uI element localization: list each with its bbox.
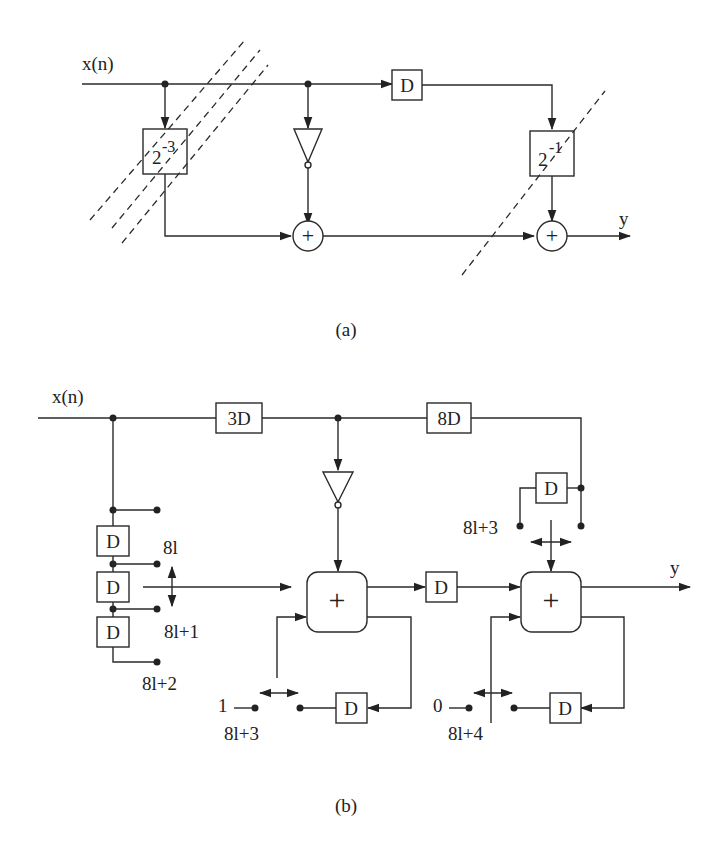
inverter-bubble [335,502,341,508]
caption-a: (a) [335,319,356,341]
diagram-a: x(n) D 2 -3 + 2 -1 + y [82,40,630,341]
delay-label: D [344,698,358,719]
caption-b: (b) [335,795,357,817]
switch-contact [578,523,585,530]
delay-label: D [544,478,558,499]
tap-label-8l-2: 8l+2 [142,673,177,694]
input-label-a: x(n) [82,53,114,75]
acc1-const: 1 [218,695,228,716]
acc2-switch-label: 8l+4 [448,723,483,744]
switch-contact [517,523,524,530]
adder-symbol: + [329,583,346,616]
inverter-bubble [305,162,311,168]
delay-label: D [558,698,572,719]
switch-contact [154,561,161,568]
mux-wire [520,488,536,526]
inverter-icon [294,129,322,162]
delay-label: D [106,622,120,643]
switch-contact [154,659,161,666]
acc1-switch-label: 8l+3 [224,723,259,744]
switch-contact [154,507,161,514]
input-label-b: x(n) [52,386,84,408]
switch-contact [154,606,161,613]
cutset-line [462,91,605,275]
delay-label: D [106,531,120,552]
shift-to-adder-wire [165,174,291,236]
right-mux-label: 8l+3 [463,517,498,538]
shift-exp: -3 [162,138,175,155]
shift-base: 2 [152,147,162,168]
delay-label: D [434,577,448,598]
adder-symbol: + [302,223,314,248]
inverter-icon [323,472,353,502]
adder-symbol: + [546,223,558,248]
switch-contact [297,705,304,712]
feedback-out-wire [367,617,411,708]
delay-3d-label: 3D [227,408,250,429]
tap-label-8l: 8l [163,537,178,558]
switch-contact [511,705,518,712]
tap-wire [113,647,157,662]
tap-label-8l-1: 8l+1 [164,621,199,642]
block-diagram: x(n) D 2 -3 + 2 -1 + y [0,0,724,852]
acc2-const: 0 [433,695,443,716]
delay-label: D [106,577,120,598]
output-label-b: y [670,557,680,578]
delay-to-shift-wire [422,85,552,129]
diagram-b: x(n) 3D 8D D D D 8l 8l+1 [38,386,690,817]
output-label-a: y [619,208,629,229]
delay-label: D [400,75,414,96]
feedback-in-wire [277,617,306,678]
adder-symbol: + [543,583,560,616]
feedback-out-wire [581,617,624,708]
delay-8d-label: 8D [437,408,460,429]
